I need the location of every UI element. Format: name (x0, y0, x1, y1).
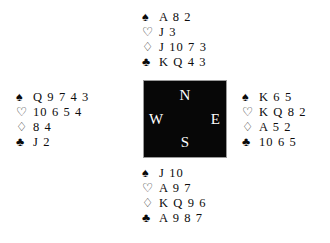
hand-east-diamonds-row: ♢ A 5 2 (242, 120, 307, 135)
hand-west-clubs-row: ♣ J 2 (16, 135, 89, 150)
hand-west-clubs: J 2 (33, 135, 51, 150)
compass-west-label: W (149, 112, 163, 127)
hand-west-spades-row: ♠ Q 9 7 4 3 (16, 90, 89, 105)
compass-south-label: S (144, 135, 226, 150)
hand-east-clubs: 10 6 5 (259, 135, 297, 150)
hand-east-hearts-row: ♡ K Q 8 2 (242, 105, 307, 120)
hand-south-diamonds: K Q 9 6 (159, 196, 207, 211)
hand-north-clubs: K Q 4 3 (159, 55, 207, 70)
bridge-deal-diagram: ♠ A 8 2 ♡ J 3 ♢ J 10 7 3 ♣ K Q 4 3 ♠ Q 9… (0, 0, 330, 243)
spade-icon: ♠ (142, 166, 159, 181)
hand-north-diamonds: J 10 7 3 (159, 40, 207, 55)
compass-box: N W E S (143, 80, 227, 158)
hand-south-clubs: A 9 8 7 (159, 211, 203, 226)
hand-west-diamonds-row: ♢ 8 4 (16, 120, 89, 135)
hand-west-spades: Q 9 7 4 3 (33, 90, 89, 105)
club-icon: ♣ (142, 55, 159, 70)
hand-north-diamonds-row: ♢ J 10 7 3 (142, 40, 207, 55)
diamond-icon: ♢ (16, 120, 33, 135)
hand-north-clubs-row: ♣ K Q 4 3 (142, 55, 207, 70)
spade-icon: ♠ (242, 90, 259, 105)
hand-east-spades-row: ♠ K 6 5 (242, 90, 307, 105)
hand-south-clubs-row: ♣ A 9 8 7 (142, 211, 207, 226)
hand-south-hearts-row: ♡ A 9 7 (142, 181, 207, 196)
hand-east-spades: K 6 5 (259, 90, 292, 105)
hand-west: ♠ Q 9 7 4 3 ♡ 10 6 5 4 ♢ 8 4 ♣ J 2 (16, 90, 89, 150)
hand-north-hearts-row: ♡ J 3 (142, 25, 207, 40)
hand-north-spades: A 8 2 (159, 10, 192, 25)
hand-south-hearts: A 9 7 (159, 181, 192, 196)
hand-north-spades-row: ♠ A 8 2 (142, 10, 207, 25)
hand-north-hearts: J 3 (159, 25, 177, 40)
compass-east-label: E (211, 112, 220, 127)
hand-east-clubs-row: ♣ 10 6 5 (242, 135, 307, 150)
hand-east-hearts: K Q 8 2 (259, 105, 307, 120)
club-icon: ♣ (16, 135, 33, 150)
diamond-icon: ♢ (142, 40, 159, 55)
hand-west-hearts: 10 6 5 4 (33, 105, 82, 120)
heart-icon: ♡ (242, 105, 259, 120)
hand-south-spades-row: ♠ J 10 (142, 166, 207, 181)
club-icon: ♣ (142, 211, 159, 226)
hand-north: ♠ A 8 2 ♡ J 3 ♢ J 10 7 3 ♣ K Q 4 3 (142, 10, 207, 70)
heart-icon: ♡ (142, 181, 159, 196)
heart-icon: ♡ (142, 25, 159, 40)
diamond-icon: ♢ (142, 196, 159, 211)
hand-south-diamonds-row: ♢ K Q 9 6 (142, 196, 207, 211)
hand-west-hearts-row: ♡ 10 6 5 4 (16, 105, 89, 120)
hand-south-spades: J 10 (159, 166, 184, 181)
hand-west-diamonds: 8 4 (33, 120, 52, 135)
hand-south: ♠ J 10 ♡ A 9 7 ♢ K Q 9 6 ♣ A 9 8 7 (142, 166, 207, 226)
hand-east: ♠ K 6 5 ♡ K Q 8 2 ♢ A 5 2 ♣ 10 6 5 (242, 90, 307, 150)
diamond-icon: ♢ (242, 120, 259, 135)
hand-east-diamonds: A 5 2 (259, 120, 292, 135)
club-icon: ♣ (242, 135, 259, 150)
spade-icon: ♠ (142, 10, 159, 25)
compass-north-label: N (144, 88, 226, 103)
heart-icon: ♡ (16, 105, 33, 120)
spade-icon: ♠ (16, 90, 33, 105)
